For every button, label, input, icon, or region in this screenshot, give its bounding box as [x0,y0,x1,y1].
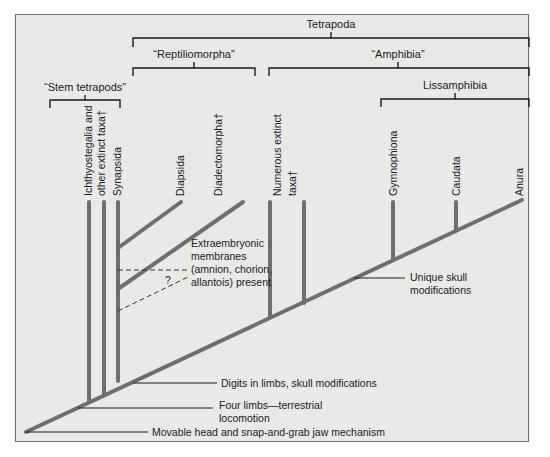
taxon-label-numerous-1: Numerous extinct [271,114,283,196]
taxon-label-diapsida: Diapsida [174,155,186,196]
character-movable-head: Movable head and snap-and-grab jaw mecha… [26,426,385,438]
character-digits-line1: Digits in limbs, skull modifications [221,377,377,389]
taxon-label-gymnophiona: Gymnophiona [387,130,399,196]
taxon-label-ichthyostegalia-2: other extinct taxa† [95,110,107,196]
taxon-branches [89,202,456,402]
bracket-tetrapoda: Tetrapoda [133,18,529,47]
group-label-tetrapoda: Tetrapoda [307,18,357,30]
group-label-reptiliomorpha: “Reptiliomorpha” [153,48,235,60]
character-extraembryonic-line3: (amnion, chorion, [191,263,272,275]
character-extraembryonic-line4: allantois) present [191,276,271,288]
taxon-label-caudata: Caudata [450,156,462,196]
group-label-amphibia: “Amphibia” [371,48,425,60]
character-unique-skull-line2: modifications [410,284,471,296]
group-label-lissamphibia: Lissamphibia [423,79,488,91]
group-label-stem-tetrapods: “Stem tetrapods” [44,81,126,93]
character-four-limbs: Four limbs—terrestrial locomotion [78,399,322,424]
taxon-label-synapsida: Synapsida [111,147,123,196]
character-four-limbs-line2: locomotion [219,412,270,424]
bracket-lissamphibia: Lissamphibia [381,79,529,107]
bracket-stem-tetrapods: “Stem tetrapods” [44,81,126,108]
cladogram-svg: Tetrapoda “Reptiliomorpha” “Amphibia” “S… [0,0,550,457]
character-extraembryonic: Extraembryonic membranes (amnion, chorio… [191,237,272,288]
uncertain-mark: ? [165,274,171,286]
taxon-label-numerous-2: taxa† [286,170,298,196]
character-movable-head-line1: Movable head and snap-and-grab jaw mecha… [152,426,385,438]
taxon-label-anura: Anura [513,168,525,196]
character-four-limbs-line1: Four limbs—terrestrial [219,399,322,411]
bracket-reptiliomorpha: “Reptiliomorpha” [133,48,255,76]
bracket-amphibia: “Amphibia” [269,48,529,76]
taxon-label-diadectomorpha: Diadectomorpha† [212,113,224,196]
character-extraembryonic-line2: membranes [191,250,246,262]
taxon-labels: Ichthyostegalia and other extinct taxa† … [82,105,525,196]
taxon-label-ichthyostegalia-1: Ichthyostegalia and [82,105,94,196]
main-stem-branch [26,200,522,432]
character-extraembryonic-line1: Extraembryonic [191,237,264,249]
character-unique-skull: Unique skull modifications [354,271,471,296]
character-unique-skull-line1: Unique skull [410,271,467,283]
character-digits: Digits in limbs, skull modifications [133,377,377,389]
branch-diapsida [118,202,181,248]
